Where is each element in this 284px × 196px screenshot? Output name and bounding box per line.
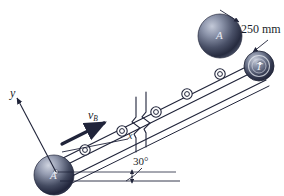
angle-arc [126, 168, 142, 181]
belt-lines [53, 62, 269, 186]
roller-group [80, 69, 225, 155]
angle-indicator-30 [60, 168, 180, 183]
dimension-leader-bottom [253, 40, 268, 52]
axis-y-label: y [10, 86, 15, 101]
conveyor-diagram: 250 mm 30° vB x y A A T [0, 0, 284, 196]
roller [215, 69, 225, 79]
belt-bottom-line [62, 80, 266, 181]
roller [182, 89, 192, 99]
velocity-subscript: B [93, 114, 98, 123]
dimension-label-250mm: 250 mm [241, 22, 281, 37]
axis-x-label: x [128, 130, 132, 141]
axis-y [17, 98, 56, 172]
pulley-label: T [256, 60, 262, 72]
angle-label-30deg: 30° [133, 155, 148, 167]
roller [151, 107, 161, 117]
belt-far-edge-line [66, 86, 269, 186]
sphere-top-label: A [216, 29, 223, 41]
roller [117, 126, 127, 136]
sphere-bottom-label: A [50, 169, 57, 181]
velocity-label: vB [88, 108, 98, 123]
